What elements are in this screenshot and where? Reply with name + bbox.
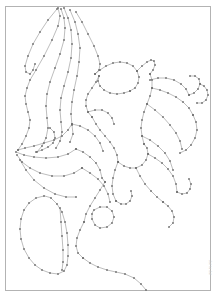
dot-vertex xyxy=(150,59,152,61)
dot-vertex xyxy=(181,193,183,195)
dot-vertex xyxy=(133,277,135,279)
dot-vertex xyxy=(201,102,203,104)
dot-path-wing-right-lower xyxy=(147,104,182,149)
dot-vertex xyxy=(95,162,97,164)
dot-vertex xyxy=(129,200,131,202)
dot-vertex xyxy=(67,71,69,73)
dot-path-wing-lower-fan-d xyxy=(20,160,76,197)
dot-vertex xyxy=(54,67,56,69)
dot-vertex xyxy=(182,101,184,103)
dot-vertex xyxy=(25,103,27,105)
dot-vertex xyxy=(16,154,18,156)
dot-vertex xyxy=(74,21,76,23)
dot-vertex xyxy=(41,145,43,147)
dot-vertex xyxy=(99,129,101,131)
dot-vertex xyxy=(46,93,48,95)
dot-vertex xyxy=(99,142,101,144)
dot-to-dot-artwork xyxy=(0,0,219,302)
dot-vertex xyxy=(169,160,171,162)
dot-path-wing-lower-fan-b xyxy=(16,149,76,158)
dot-vertex xyxy=(69,141,71,143)
dot-vertex xyxy=(140,283,142,285)
dot-vertex xyxy=(157,145,159,147)
dot-vertex xyxy=(103,89,105,91)
dot-vertex xyxy=(66,264,68,266)
dot-vertex xyxy=(99,189,101,191)
dot-vertex xyxy=(111,222,113,224)
dot-vertex xyxy=(25,135,27,137)
dot-vertex xyxy=(149,95,151,97)
dot-vertex xyxy=(60,121,62,123)
dot-vertex xyxy=(46,117,48,119)
dot-vertex xyxy=(32,69,34,71)
dot-path-leg-left-front xyxy=(112,162,118,201)
dot-vertex xyxy=(64,27,66,29)
dot-vertex xyxy=(43,142,45,144)
dot-vertex xyxy=(169,124,171,126)
dot-vertex xyxy=(125,203,127,205)
dot-vertex xyxy=(61,131,63,133)
dot-vertex xyxy=(149,73,151,75)
dot-vertex xyxy=(162,201,164,203)
dot-vertex xyxy=(97,178,99,180)
dot-vertex xyxy=(99,206,101,208)
dot-vertex xyxy=(156,196,158,198)
dot-vertex xyxy=(67,153,69,155)
dot-vertex xyxy=(43,55,45,57)
dot-vertex xyxy=(104,135,106,137)
dot-vertex xyxy=(167,205,169,207)
dot-path-wing-right-membrane xyxy=(180,115,197,153)
dot-vertex xyxy=(99,63,101,65)
dot-vertex xyxy=(97,55,99,57)
dot-vertex xyxy=(85,99,87,101)
dot-vertex xyxy=(203,85,205,87)
dot-vertex xyxy=(83,221,85,223)
dot-vertex xyxy=(145,289,147,291)
dot-vertex xyxy=(93,209,95,211)
dot-vertex xyxy=(35,69,37,71)
dot-vertex xyxy=(131,195,133,197)
dot-vertex xyxy=(39,172,41,174)
dot-path-leg-right-back xyxy=(148,154,177,192)
dot-vertex xyxy=(87,111,89,113)
dot-vertex xyxy=(33,145,35,147)
dot-vertex xyxy=(75,196,77,198)
dot-vertex xyxy=(60,8,62,10)
dot-vertex xyxy=(97,80,99,82)
dot-vertex xyxy=(94,197,96,199)
dot-vertex xyxy=(172,222,174,224)
dot-vertex xyxy=(116,93,118,95)
dot-vertex xyxy=(141,65,143,67)
dot-vertex xyxy=(176,191,178,193)
dot-vertex xyxy=(123,165,125,167)
dot-vertex xyxy=(180,83,182,85)
dot-vertex xyxy=(20,238,22,240)
dot-vertex xyxy=(165,77,167,79)
dot-vertex xyxy=(81,167,83,169)
dot-vertex xyxy=(192,114,194,116)
dot-vertex xyxy=(19,228,21,230)
dot-vertex xyxy=(138,76,140,78)
dot-vertex xyxy=(111,185,113,187)
dot-vertex xyxy=(167,92,169,94)
dot-vertex xyxy=(89,205,91,207)
dot-vertex xyxy=(67,244,69,246)
dot-vertex xyxy=(117,161,119,163)
dot-vertex xyxy=(111,210,113,212)
dot-vertex xyxy=(63,7,65,9)
dot-path-wing-right-upper xyxy=(152,88,193,115)
dot-vertex xyxy=(136,70,138,72)
dot-vertex xyxy=(173,216,175,218)
dot-vertex xyxy=(124,273,126,275)
dot-vertex xyxy=(61,235,63,237)
dot-vertex xyxy=(63,270,65,272)
dot-vertex xyxy=(109,141,111,143)
dot-vertex xyxy=(76,75,78,77)
dot-vertex xyxy=(49,81,51,83)
dot-vertex xyxy=(50,197,52,199)
dot-vertex xyxy=(69,9,71,11)
dot-vertex xyxy=(190,144,192,146)
dot-path-tail-mid xyxy=(136,168,163,202)
dot-vertex xyxy=(47,127,49,129)
dot-vertex xyxy=(89,172,91,174)
